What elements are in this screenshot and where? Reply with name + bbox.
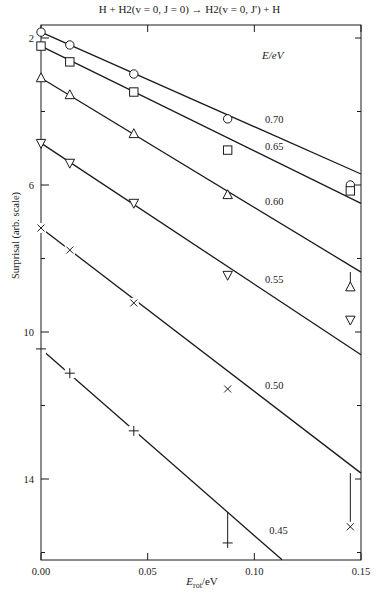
surprisal-plot: 0.000.050.100.152610140.700.650.600.550.… [0,0,379,593]
x-tick-label: 0.10 [245,566,263,577]
circle-marker [66,41,74,49]
square-marker [346,187,354,195]
y-tick-label: 6 [29,180,34,191]
fit-line-0.70 [41,32,361,174]
series-label: 0.55 [265,274,283,285]
x-axis-label: Erot/eV [185,575,218,590]
x-tick-label: 0.00 [32,566,50,577]
fit-line-0.45 [41,349,282,560]
triangle-up-marker [223,190,232,199]
fit-line-0.50 [41,228,361,473]
series-label: 0.65 [265,141,283,152]
plot-frame [41,25,361,560]
triangle-up-marker [346,282,355,291]
triangle-up-marker [36,73,45,82]
circle-marker [130,70,138,78]
square-marker [130,88,138,96]
legend-title: E/eV [261,49,285,61]
series-label: 0.50 [265,380,283,391]
square-marker [223,146,231,154]
square-marker [37,42,45,50]
series-label: 0.60 [265,196,283,207]
series-label: 0.70 [265,114,283,125]
circle-marker [37,28,45,36]
square-marker [66,58,74,66]
y-tick-label: 2 [29,33,34,44]
fit-line-0.65 [41,46,361,203]
series-label: 0.45 [269,525,287,536]
triangle-up-marker [129,129,138,138]
triangle-down-marker [36,139,45,148]
x-tick-label: 0.15 [352,566,370,577]
triangle-down-marker [346,316,355,325]
x-tick-label: 0.05 [138,566,156,577]
triangle-down-marker [223,271,232,280]
y-tick-label: 10 [24,327,35,338]
y-tick-label: 14 [24,474,35,485]
circle-marker [223,115,231,123]
